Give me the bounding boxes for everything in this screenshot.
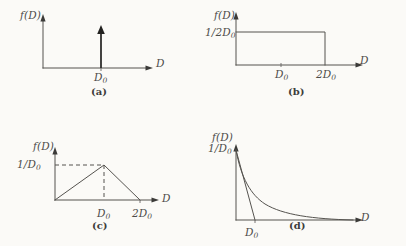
panel-d-ytick-base: 1/D xyxy=(208,142,227,154)
panel-c-y-axis-label: f(D) xyxy=(33,141,54,152)
panel-b-caption: (b) xyxy=(288,86,304,97)
panel-b-xtick-d0-base: D xyxy=(275,68,284,80)
panel-b-x-axis-label: D xyxy=(360,55,369,66)
y-axis-arrowhead xyxy=(40,14,45,22)
panel-d-xtick-d0-sub: 0 xyxy=(254,231,259,240)
panel-c-xtick-label-d0: D0 xyxy=(97,208,110,220)
panel-c-xtick-2d0-base: 2D xyxy=(132,207,147,219)
panel-a-xtick-d0-sub: 0 xyxy=(103,76,108,85)
panel-d-x-axis-label: D xyxy=(361,212,370,223)
panel-d-exponential: f(D) 1/D0 D D0 (d) xyxy=(203,123,406,246)
panel-a-delta: f(D) D D0 (a) xyxy=(0,0,203,123)
panel-b-xtick-2d0-sub: 0 xyxy=(331,73,336,82)
panel-a-y-axis-label: f(D) xyxy=(20,10,41,21)
panel-c-xtick-label-2d0: 2D0 xyxy=(132,208,152,220)
panel-b-ytick-sub: 0 xyxy=(231,31,236,40)
panel-a-xtick-label-d0: D0 xyxy=(94,72,107,84)
x-axis-arrowhead xyxy=(152,197,160,202)
panel-b-xtick-2d0-base: 2D xyxy=(316,68,331,80)
delta-spike-arrowhead xyxy=(97,25,105,34)
panel-b-y-axis-label: f(D) xyxy=(214,10,235,21)
figure-panel-grid: f(D) D D0 (a) f(D) 1/2D0 D D0 2D0 (b) xyxy=(0,0,406,246)
panel-c-ytick-sub: 0 xyxy=(36,163,41,172)
panel-c-x-axis-label: D xyxy=(162,193,171,204)
panel-b-ytick-label: 1/2D0 xyxy=(205,27,236,39)
panel-c-xtick-d0-base: D xyxy=(97,207,106,219)
panel-d-ytick-label: 1/D0 xyxy=(208,143,232,155)
panel-b-xtick-label-d0: D0 xyxy=(275,69,288,81)
panel-c-xtick-2d0-sub: 0 xyxy=(147,212,152,221)
panel-d-y-axis-label: f(D) xyxy=(212,132,233,143)
triangular-density-curve xyxy=(55,165,140,200)
panel-b-uniform: f(D) 1/2D0 D D0 2D0 (b) xyxy=(203,0,406,123)
exponential-density-curve xyxy=(236,150,353,220)
panel-b-xtick-label-2d0: 2D0 xyxy=(316,69,336,81)
panel-a-x-axis-label: D xyxy=(156,58,165,69)
panel-c-caption: (c) xyxy=(92,220,108,231)
panel-a-xtick-d0-base: D xyxy=(94,71,103,83)
panel-c-triangular: f(D) 1/D0 D D0 2D0 (c) xyxy=(0,123,203,246)
panel-d-caption: (d) xyxy=(289,220,305,231)
x-axis-arrowhead xyxy=(146,65,154,70)
panel-b-xtick-d0-sub: 0 xyxy=(284,73,289,82)
panel-d-xtick-d0-base: D xyxy=(245,226,254,238)
panel-a-caption: (a) xyxy=(91,86,107,97)
panel-c-ytick-base: 1/D xyxy=(17,158,36,170)
panel-d-xtick-label-d0: D0 xyxy=(245,227,258,239)
panel-b-ytick-base: 1/2D xyxy=(205,26,231,38)
panel-d-ytick-sub: 0 xyxy=(227,147,232,156)
uniform-density-outline xyxy=(236,32,325,65)
panel-c-ytick-label: 1/D0 xyxy=(17,159,41,171)
tangent-line-at-origin xyxy=(236,150,255,220)
